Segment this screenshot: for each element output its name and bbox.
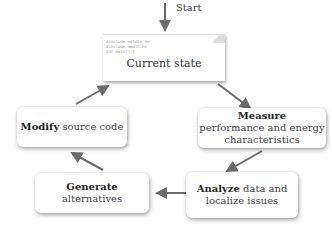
current-state-label: Current state [103, 57, 225, 70]
generate-desc: alternatives [35, 193, 149, 205]
modify-node: Modify source code [17, 107, 127, 147]
arrow-to-analyze [227, 151, 262, 171]
arrow-to-measure [218, 84, 250, 108]
modify-desc: source code [62, 121, 123, 132]
generate-node: Generate alternatives [35, 173, 149, 213]
page-fold-icon [207, 35, 225, 43]
measure-title: Measure [198, 110, 326, 122]
measure-desc: performance and energy characteristics [198, 122, 326, 146]
arrow-to-modify [72, 153, 103, 170]
generate-title: Generate [35, 181, 149, 193]
measure-node: Measure performance and energy character… [198, 108, 326, 148]
start-label: Start [176, 2, 202, 13]
current-state-node: #include <stdio.h> #include <math.h> int… [103, 34, 225, 81]
analyze-title: Analyze [197, 183, 240, 194]
modify-title: Modify [21, 121, 60, 132]
arrow-to-current-state [76, 86, 108, 104]
code-snippet: #include <stdio.h> #include <math.h> int… [106, 39, 149, 54]
analyze-node: Analyze data and localize issues [186, 172, 298, 218]
